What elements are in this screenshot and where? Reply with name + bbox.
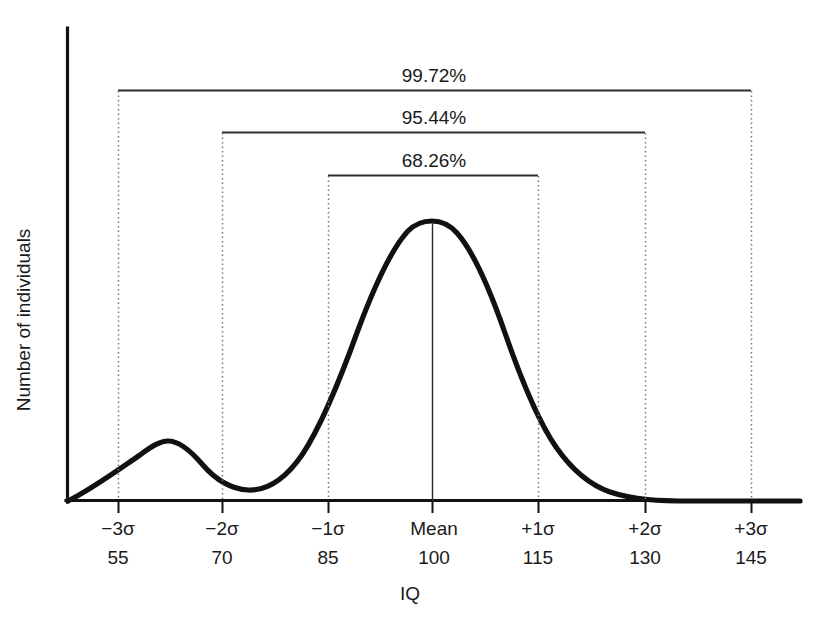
x-tick-plus-3-sigma: +3σ 145 [734,501,768,568]
chart-canvas: 99.72% 95.44% 68.26% −3σ 55 −2σ [0,0,818,630]
x-tick-sigma-label: +2σ [628,518,662,539]
bracket-68-26-label: 68.26% [402,150,467,171]
x-tick-value-label: 85 [317,547,338,568]
distribution-curve [68,221,800,501]
x-tick-minus-3-sigma: −3σ 55 [101,501,135,568]
x-tick-value-label: 115 [523,547,553,568]
x-tick-value-label: 55 [107,547,128,568]
x-tick-sigma-label: −2σ [205,518,239,539]
x-tick-sigma-label: −3σ [101,518,135,539]
bracket-99-72-label: 99.72% [402,65,467,86]
x-tick-plus-1-sigma: +1σ 115 [521,501,555,568]
bracket-95-44-label: 95.44% [402,107,467,128]
x-axis-ticks: −3σ 55 −2σ 70 −1σ 85 Mean 100 +1σ [101,501,768,568]
x-tick-minus-2-sigma: −2σ 70 [205,501,239,568]
iq-distribution-chart: 99.72% 95.44% 68.26% −3σ 55 −2σ [0,0,818,630]
x-tick-sigma-label: −1σ [311,518,345,539]
x-tick-value-label: 70 [211,547,232,568]
x-tick-value-label: 145 [735,547,767,568]
x-tick-plus-2-sigma: +2σ 130 [628,501,662,568]
x-tick-sigma-label: +3σ [734,518,768,539]
x-tick-mean: Mean 100 [410,501,458,568]
x-tick-value-label: 100 [418,547,450,568]
x-tick-sigma-label: +1σ [521,518,555,539]
x-axis-title: IQ [400,583,420,604]
bracket-99-72: 99.72% [118,65,752,500]
x-tick-minus-1-sigma: −1σ 85 [311,501,345,568]
y-axis-title: Number of individuals [13,229,34,412]
x-tick-sigma-label: Mean [410,518,458,539]
x-tick-value-label: 130 [629,547,661,568]
